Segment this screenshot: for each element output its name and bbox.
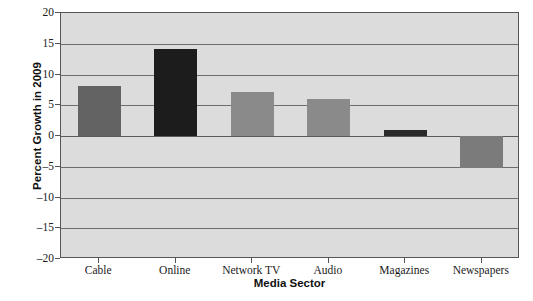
y-tick-label-5: 5 <box>20 98 54 110</box>
gridline-5 <box>61 105 518 106</box>
bar-network-tv <box>231 92 274 136</box>
x-axis-title: Media Sector <box>60 277 519 289</box>
x-tick-mark-5 <box>481 258 482 263</box>
bar-online <box>154 49 197 136</box>
x-tick-label-audio: Audio <box>313 264 342 276</box>
y-tick-label--20: –20 <box>20 252 54 264</box>
x-tick-label-online: Online <box>159 264 190 276</box>
y-tick-label--5: –5 <box>20 160 54 172</box>
x-tick-mark-4 <box>404 258 405 263</box>
gridline-15 <box>61 44 518 45</box>
x-tick-mark-0 <box>98 258 99 263</box>
bar-chart: Percent Growth in 2009 20151050–5–10–15–… <box>0 0 533 301</box>
gridline-0 <box>61 136 518 137</box>
y-tick-label-20: 20 <box>20 6 54 18</box>
bar-cable <box>78 86 121 136</box>
bar-newspapers <box>460 136 503 168</box>
x-tick-label-network-tv: Network TV <box>222 264 280 276</box>
y-tick-label-0: 0 <box>20 129 54 141</box>
x-tick-label-newspapers: Newspapers <box>453 264 509 276</box>
y-tick-label--15: –15 <box>20 221 54 233</box>
x-tick-label-cable: Cable <box>85 264 112 276</box>
x-tick-mark-3 <box>328 258 329 263</box>
y-tick-label--10: –10 <box>20 191 54 203</box>
x-tick-mark-1 <box>175 258 176 263</box>
gridline--5 <box>61 167 518 168</box>
bar-magazines <box>384 130 427 136</box>
x-tick-label-magazines: Magazines <box>379 264 429 276</box>
y-tick-label-15: 15 <box>20 37 54 49</box>
x-tick-mark-2 <box>251 258 252 263</box>
y-tick-label-10: 10 <box>20 68 54 80</box>
gridline--15 <box>61 228 518 229</box>
plot-area <box>60 12 519 258</box>
gridline--10 <box>61 198 518 199</box>
bar-audio <box>307 99 350 136</box>
y-axis-ticks: 20151050–5–10–15–20 <box>16 12 54 258</box>
gridline-10 <box>61 75 518 76</box>
